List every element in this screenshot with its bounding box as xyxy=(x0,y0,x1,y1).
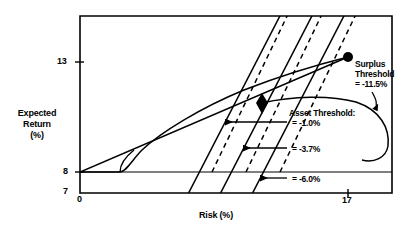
chart-figure: 13 8 7 0 17 Expected Return (%) Risk (%)… xyxy=(0,0,420,232)
asset-threshold-value-2: = -3.7% xyxy=(292,144,320,154)
y-axis-title-line-1: Expected xyxy=(4,108,70,119)
y-axis-title-line-3: (%) xyxy=(4,130,70,141)
surplus-frontier-curve xyxy=(262,97,388,161)
y-tick-label-7: 7 xyxy=(63,186,68,196)
asset-threshold-value-1: = -1.0% xyxy=(292,118,320,128)
asset-threshold-callout-arrows xyxy=(225,122,287,178)
surplus-optimal-point-marker xyxy=(343,52,353,62)
x-axis-title: Risk (%) xyxy=(180,210,252,221)
asset-threshold-heading: Asset Threshold: xyxy=(289,108,375,118)
y-tick-label-13: 13 xyxy=(57,56,67,66)
y-tick-label-8: 8 xyxy=(63,166,68,176)
surplus-threshold-line-1-text: Surplus xyxy=(355,59,417,69)
asset-threshold-value-3: = -6.0% xyxy=(292,174,320,184)
y-axis-title: Expected Return (%) xyxy=(4,108,70,141)
x-tick-label-0: 0 xyxy=(77,194,82,204)
surplus-threshold-value-text: = -11.5% xyxy=(355,79,417,89)
x-tick-label-17: 17 xyxy=(342,195,352,205)
surplus-threshold-annotation: Surplus Threshold = -11.5% xyxy=(355,59,417,89)
surplus-threshold-line-2-text: Threshold xyxy=(355,69,417,79)
y-axis-title-line-2: Return xyxy=(4,119,70,130)
